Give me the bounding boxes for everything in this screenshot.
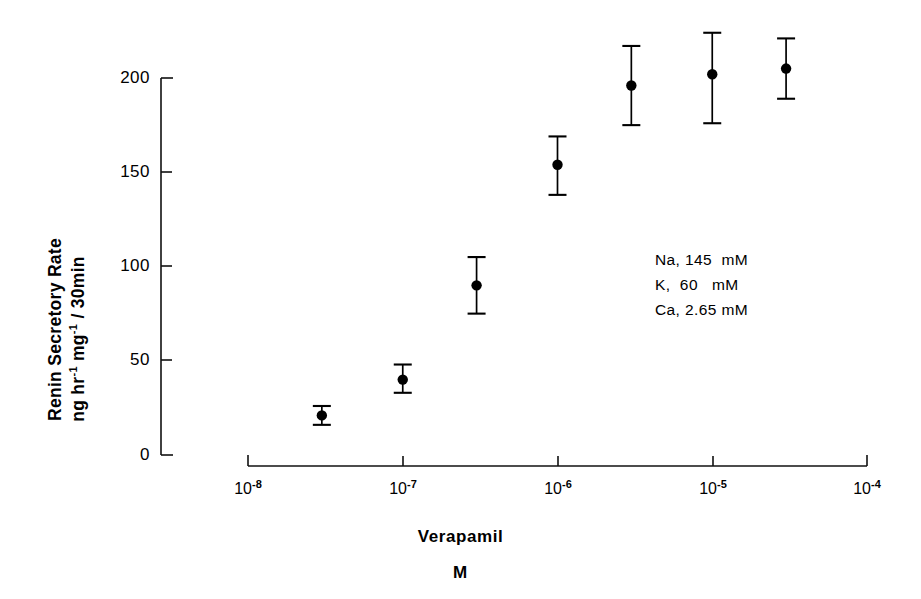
data-point-marker — [781, 63, 791, 73]
data-point-group — [777, 38, 795, 98]
conditions-annotation: Na, 145 mM K, 60 mM Ca, 2.65 mM — [655, 247, 748, 322]
chart-figure: 0 50 100 150 200 10-8 10-7 10-6 10-5 10-… — [0, 0, 921, 599]
x-tick-mantissa: 10 — [544, 480, 562, 497]
x-axis-unit: M — [0, 563, 921, 583]
data-point-group — [549, 136, 567, 194]
condition-potassium: K, 60 mM — [655, 272, 748, 297]
condition-sodium: Na, 145 mM — [655, 247, 748, 272]
y-tick-label-50: 50 — [90, 350, 150, 370]
x-tick-label-1e-7: 10-7 — [368, 478, 438, 498]
data-point-marker — [471, 280, 481, 290]
x-tick-exponent: -7 — [407, 478, 417, 490]
y-axis — [161, 78, 173, 455]
x-tick-label-1e-6: 10-6 — [523, 478, 593, 498]
data-point-marker — [626, 80, 636, 90]
x-axis-title: Verapamil — [0, 527, 921, 547]
data-point-group — [394, 365, 412, 393]
data-point-marker — [317, 410, 327, 420]
scatter-plot-canvas — [0, 0, 921, 599]
x-tick-label-1e-4: 10-4 — [832, 478, 902, 498]
y-tick-label-200: 200 — [90, 68, 150, 88]
y-tick-label-0: 0 — [90, 445, 150, 465]
data-point-group — [468, 257, 486, 314]
condition-calcium: Ca, 2.65 mM — [655, 297, 748, 322]
x-tick-mantissa: 10 — [234, 480, 252, 497]
x-axis — [248, 455, 867, 466]
x-tick-exponent: -6 — [562, 478, 572, 490]
x-tick-label-1e-5: 10-5 — [678, 478, 748, 498]
x-tick-label-1e-8: 10-8 — [213, 478, 283, 498]
x-tick-mantissa: 10 — [699, 480, 717, 497]
x-tick-mantissa: 10 — [389, 480, 407, 497]
data-point-group — [703, 33, 721, 123]
y-tick-label-100: 100 — [90, 256, 150, 276]
data-point-marker — [552, 160, 562, 170]
x-tick-mantissa: 10 — [853, 480, 871, 497]
x-tick-exponent: -5 — [717, 478, 727, 490]
data-point-group — [622, 46, 640, 125]
data-series-layer — [313, 33, 795, 425]
x-tick-exponent: -4 — [871, 478, 881, 490]
x-tick-exponent: -8 — [252, 478, 262, 490]
y-tick-label-150: 150 — [90, 162, 150, 182]
data-point-group — [313, 406, 331, 425]
data-point-marker — [398, 374, 408, 384]
data-point-marker — [707, 69, 717, 79]
